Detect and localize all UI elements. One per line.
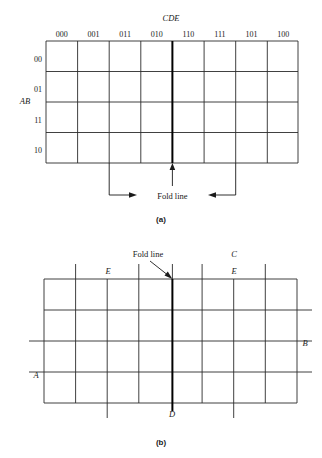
panel-b-fold-label: Fold line: [133, 249, 164, 259]
panel-a-right-bracket-arrowhead: [208, 192, 216, 198]
panel-b-label-e-left: E: [104, 266, 111, 276]
panel-a-col-header-7: 100: [277, 30, 289, 39]
panel-a-row-header-1: 01: [34, 85, 42, 94]
panel-b-grid: [44, 279, 297, 403]
panel-a-right-fold-bracket: [215, 163, 236, 195]
panel-a-col-header-4: 110: [182, 30, 194, 39]
panel-a-caption: (a): [156, 215, 166, 224]
panel-b-fold-arrow-head: [165, 272, 173, 280]
panel-b-label-e-right: E: [230, 266, 237, 276]
panel-b-label-a-left: A: [32, 370, 39, 380]
panel-a: CDE 000 001 011 010 110 111 101 100 AB 0…: [0, 0, 322, 230]
panel-a-left-bracket-arrowhead: [129, 192, 137, 198]
panel-a-col-header-3: 010: [151, 30, 163, 39]
panel-b-caption: (b): [156, 438, 167, 447]
panel-a-col-header-5: 111: [214, 30, 225, 39]
panel-b-label-c-top: C: [231, 249, 237, 259]
panel-a-col-header-1: 001: [87, 30, 99, 39]
panel-b: Fold line E C E B A D: [0, 230, 322, 458]
panel-a-top-label: CDE: [163, 13, 181, 23]
panel-a-row-header-0: 00: [34, 55, 42, 64]
panel-a-fold-arrow-head: [170, 163, 176, 170]
panel-a-row-header-2: 11: [34, 116, 42, 125]
panel-a-side-label: AB: [19, 96, 30, 106]
panel-b-label-b-right: B: [302, 338, 307, 348]
panel-a-col-header-0: 000: [56, 30, 68, 39]
panel-a-col-header-2: 011: [119, 30, 131, 39]
panel-a-fold-label: Fold line: [157, 191, 188, 201]
figure-karnaugh-map-five-variable: CDE 000 001 011 010 110 111 101 100 AB 0…: [0, 0, 322, 458]
panel-a-row-header-3: 10: [34, 146, 42, 155]
panel-a-col-header-6: 101: [246, 30, 258, 39]
panel-a-left-fold-bracket: [109, 163, 130, 195]
